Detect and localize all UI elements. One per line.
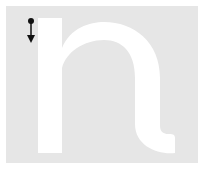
letter-stem-left <box>38 18 62 153</box>
letter-n-glyph <box>6 6 198 163</box>
letter-tracing-card <box>6 6 198 163</box>
